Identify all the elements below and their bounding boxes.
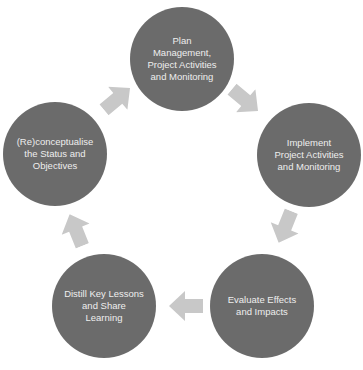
node-implement-label: Implement Project Activities and Monitor…: [274, 137, 343, 173]
node-plan-label: Plan Management, Project Activities and …: [147, 35, 216, 83]
node-implement: Implement Project Activities and Monitor…: [257, 103, 361, 207]
node-reconceptualise: (Re)conceptualise the Status and Objecti…: [3, 102, 107, 206]
arrow-down-right-icon: [222, 78, 267, 123]
node-reconceptualise-label: (Re)conceptualise the Status and Objecti…: [17, 136, 94, 172]
arrow-up-right-icon: [94, 77, 139, 122]
arrow-up-icon: [56, 209, 97, 252]
cycle-diagram: Plan Management, Project Activities and …: [0, 0, 363, 370]
node-distill-label: Distill Key Lessons and Share Learning: [64, 288, 144, 324]
arrow-down-left-icon: [265, 206, 306, 249]
node-plan: Plan Management, Project Activities and …: [130, 7, 234, 111]
node-distill: Distill Key Lessons and Share Learning: [52, 254, 156, 358]
arrow-left-icon: [169, 291, 203, 321]
node-evaluate: Evaluate Effects and Impacts: [210, 254, 314, 358]
node-evaluate-label: Evaluate Effects and Impacts: [228, 294, 296, 318]
